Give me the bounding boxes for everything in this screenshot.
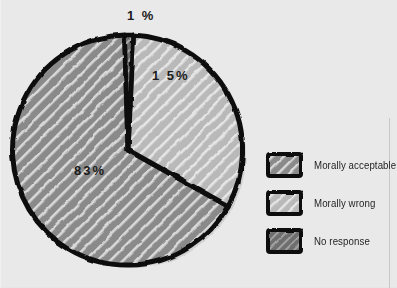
swatch-no-response-icon	[265, 227, 305, 255]
legend-item-no-response[interactable]: No response	[265, 222, 395, 260]
legend-label-morally-wrong: Morally wrong	[314, 197, 375, 209]
swatch-morally-wrong-icon	[265, 189, 305, 217]
slice-label-morally-wrong: 1 5%	[152, 68, 190, 83]
slice-label-morally-acceptable: 83%	[74, 163, 106, 178]
swatch-morally-acceptable-icon	[265, 151, 305, 179]
chart-legend: Morally acceptable Morally wrong No resp…	[265, 146, 395, 260]
legend-label-no-response: No response	[314, 235, 370, 247]
legend-label-morally-acceptable: Morally acceptable	[314, 159, 396, 171]
legend-item-morally-acceptable[interactable]: Morally acceptable	[265, 146, 395, 184]
slice-label-no-response: 1 %	[127, 8, 155, 23]
chart-canvas: 1 % 1 5% 83% Morally acceptable Morally …	[0, 0, 397, 288]
legend-item-morally-wrong[interactable]: Morally wrong	[265, 184, 395, 222]
pie-slices	[13, 35, 243, 265]
